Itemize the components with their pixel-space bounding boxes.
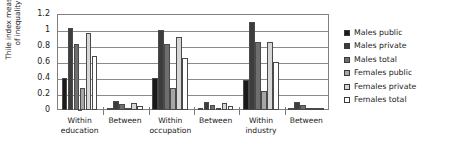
legend-item: Males private [344, 40, 454, 53]
plot-area [57, 14, 329, 110]
legend-swatch-icon [344, 84, 350, 90]
x-tick-label: Within education [57, 116, 102, 137]
legend-label: Females public [354, 69, 412, 77]
legend-label: Females private [354, 83, 416, 91]
gridline [58, 31, 328, 32]
gridline [58, 63, 328, 64]
legend-item: Males total [344, 53, 454, 66]
x-tick-label: Between [102, 116, 147, 126]
y-tick-label: 0.6 [37, 58, 50, 66]
y-tick-mark [78, 110, 82, 111]
category-separator [149, 107, 150, 115]
category-separator [103, 107, 104, 115]
category-separator [239, 107, 240, 115]
legend-label: Males public [354, 29, 402, 37]
x-tick-label: Between [284, 116, 329, 126]
chart-legend: Males publicMales privateMales totalFema… [344, 26, 454, 108]
y-tick-label: 0 [45, 106, 50, 114]
x-tick-label: Within occupation [148, 116, 193, 137]
legend-item: Females public [344, 67, 454, 80]
gridline [58, 79, 328, 80]
bar-chart: Thile index measure of inequality 1.210.… [0, 0, 454, 158]
y-tick-label: 1.2 [37, 10, 50, 18]
category-separator [194, 107, 195, 115]
legend-swatch-icon [344, 30, 350, 36]
legend-item: Males public [344, 26, 454, 39]
gridline [58, 47, 328, 48]
y-tick-label: 0.4 [37, 74, 50, 82]
legend-label: Males private [354, 42, 407, 50]
y-tick-label: 0.8 [37, 42, 50, 50]
x-axis-tick-labels: Within educationBetweenWithin occupation… [57, 116, 329, 150]
legend-swatch-icon [344, 43, 350, 49]
legend-item: Females private [344, 80, 454, 93]
legend-swatch-icon [344, 70, 350, 76]
y-tick-label: 1 [45, 26, 50, 34]
legend-swatch-icon [344, 57, 350, 63]
y-axis-tick-labels: 1.210.80.60.40.20 [26, 0, 54, 158]
legend-swatch-icon [344, 97, 350, 103]
x-tick-label: Within industry [238, 116, 283, 137]
x-tick-label: Between [193, 116, 238, 126]
legend-label: Females total [354, 96, 407, 104]
legend-item: Females total [344, 94, 454, 107]
legend-label: Males total [354, 56, 397, 64]
gridline [58, 95, 328, 96]
y-tick-label: 0.2 [37, 90, 50, 98]
category-separator [285, 107, 286, 115]
